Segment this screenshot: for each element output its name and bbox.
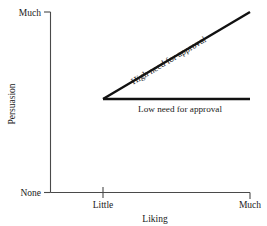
y-ticklabel-much: Much <box>19 8 41 18</box>
persuasion-liking-line-chart: Much None Little Much Liking Persuasion … <box>0 0 267 226</box>
series-annotation-low-need-for-approval: Low need for approval <box>138 104 222 114</box>
y-axis-title: Persuasion <box>7 83 17 124</box>
x-ticklabel-little: Little <box>93 200 114 210</box>
series-annotation-high-need-for-approval: High need for approval <box>129 34 208 86</box>
x-axis-title: Liking <box>142 214 168 224</box>
chart-figure: Much None Little Much Liking Persuasion … <box>0 0 267 226</box>
y-ticklabel-none: None <box>20 188 41 198</box>
x-ticklabel-much: Much <box>239 200 261 210</box>
